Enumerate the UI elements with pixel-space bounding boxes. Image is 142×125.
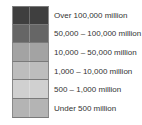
legend-swatch — [12, 80, 49, 99]
legend-label: 50,000 – 100,000 million — [54, 29, 141, 38]
legend-item: 1,000 – 10,000 million — [12, 62, 141, 81]
legend-item: 10,000 – 50,000 million — [12, 43, 141, 62]
legend-swatch — [12, 25, 49, 44]
legend-swatch — [12, 43, 49, 62]
legend-swatch — [12, 62, 49, 81]
legend-label: Over 100,000 million — [54, 11, 127, 20]
legend-label: 10,000 – 50,000 million — [54, 48, 137, 57]
legend-item: 50,000 – 100,000 million — [12, 25, 141, 44]
legend-item: Over 100,000 million — [12, 6, 141, 25]
legend-swatch — [12, 99, 49, 118]
legend-swatch — [12, 6, 49, 25]
map-legend: Over 100,000 million 50,000 – 100,000 mi… — [12, 6, 141, 118]
legend-item: Under 500 million — [12, 99, 141, 118]
legend-label: 1,000 – 10,000 million — [54, 67, 132, 76]
legend-item: 500 – 1,000 million — [12, 80, 141, 99]
legend-label: Under 500 million — [54, 104, 116, 113]
legend-label: 500 – 1,000 million — [54, 85, 121, 94]
